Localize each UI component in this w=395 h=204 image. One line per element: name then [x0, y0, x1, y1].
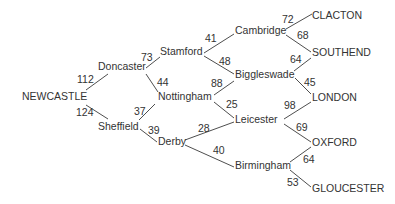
node-gloucester: GLOUCESTER [312, 182, 385, 194]
node-cambridge: Cambridge [235, 24, 287, 36]
edge-weight: 28 [198, 122, 210, 134]
edge-weight: 124 [76, 106, 94, 118]
node-newcastle: NEWCASTLE [22, 90, 87, 102]
edge-weight: 88 [211, 77, 223, 89]
edge-weight: 48 [219, 55, 231, 67]
edge-weight: 69 [296, 121, 308, 133]
node-leicester: Leicester [235, 113, 278, 125]
node-oxford: OXFORD [312, 136, 357, 148]
edge-weight: 45 [304, 76, 316, 88]
node-doncaster: Doncaster [98, 60, 146, 72]
node-biggleswade: Biggleswade [235, 68, 295, 80]
node-london: LONDON [312, 91, 357, 103]
node-nottingham: Nottingham [158, 90, 212, 102]
edge-weight: 41 [205, 32, 217, 44]
edge-weight: 98 [284, 99, 296, 111]
edge-derby-birmingham [185, 145, 234, 167]
edge-weight: 64 [290, 53, 302, 65]
edge-weight: 112 [77, 73, 94, 85]
edge-weight: 53 [287, 176, 299, 188]
edge-weight: 44 [157, 76, 169, 88]
node-southend: SOUTHEND [312, 46, 371, 58]
node-clacton: CLACTON [312, 9, 362, 21]
node-derby: Derby [158, 135, 187, 147]
edge-weight: 25 [226, 98, 238, 110]
edge-weight: 37 [134, 105, 146, 117]
node-stamford: Stamford [160, 45, 203, 57]
edge-weight: 40 [213, 144, 225, 156]
edge-weight: 64 [303, 153, 315, 165]
nodes-layer: NEWCASTLE Doncaster Sheffield Stamford N… [22, 9, 385, 194]
node-birmingham: Birmingham [235, 159, 291, 171]
route-network-diagram: 1121247344373941488825284072686445986964… [0, 0, 395, 204]
edge-weight: 68 [297, 29, 309, 41]
node-sheffield: Sheffield [98, 120, 139, 132]
